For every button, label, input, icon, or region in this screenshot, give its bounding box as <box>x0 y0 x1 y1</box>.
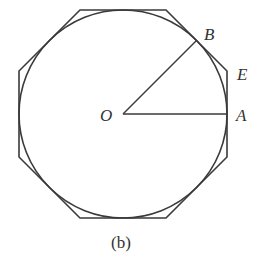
label-b: B <box>204 25 215 44</box>
radius-ob <box>123 41 197 115</box>
geometry-diagram: O A B E (b) <box>0 0 258 263</box>
label-a: A <box>235 106 247 125</box>
figure-caption: (b) <box>111 233 131 252</box>
figure-canvas: O A B E (b) <box>0 0 258 263</box>
label-e: E <box>236 65 248 84</box>
label-o: O <box>100 106 112 125</box>
